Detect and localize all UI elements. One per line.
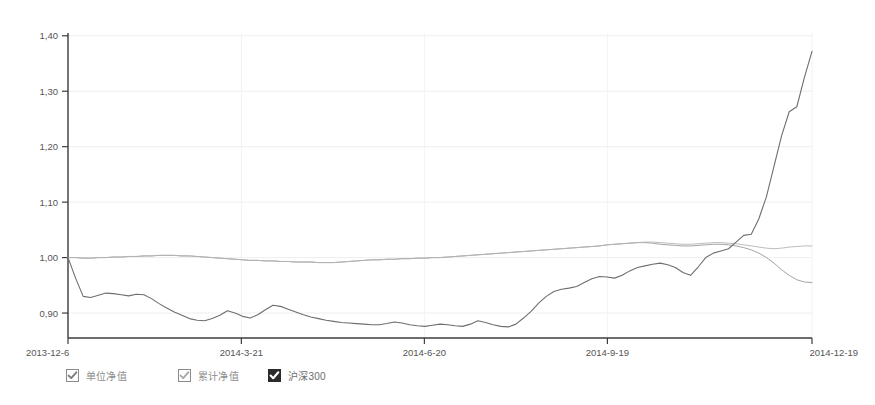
- x-tick-label: 2014-12-19: [809, 347, 858, 358]
- series-line-3: [68, 51, 812, 327]
- legend-checkbox-csi300[interactable]: [268, 369, 281, 382]
- gridlines: [68, 33, 812, 338]
- x-tick-label: 2014-9-19: [586, 347, 629, 358]
- legend-label-csi300: 沪深300: [288, 368, 326, 383]
- legend-checkbox-cumulative-nav[interactable]: [178, 369, 191, 382]
- y-tick-label: 0,90: [40, 308, 59, 319]
- legend-item-unit-nav[interactable]: 单位净值: [66, 368, 127, 383]
- check-icon: [67, 370, 78, 381]
- x-tick-label: 2014-3-21: [220, 347, 263, 358]
- series-lines: [68, 51, 812, 327]
- series-line-1: [68, 243, 812, 283]
- legend-item-cumulative-nav[interactable]: 累计净值: [178, 368, 239, 383]
- y-tick-label: 1,10: [40, 197, 59, 208]
- check-icon: [179, 370, 190, 381]
- legend-checkbox-unit-nav[interactable]: [66, 369, 79, 382]
- chart-plot-area: 1,401,301,201,101,000,90 2013-12-62014-3…: [0, 0, 875, 405]
- x-tick-label: 2013-12-6: [26, 347, 69, 358]
- check-icon: [269, 370, 280, 381]
- legend-item-csi300[interactable]: 沪深300: [268, 368, 326, 383]
- legend-label-cumulative-nav: 累计净值: [198, 368, 239, 383]
- chart-legend: 单位净值 累计净值 沪深300: [0, 362, 875, 396]
- legend-label-unit-nav: 单位净值: [86, 368, 127, 383]
- y-tick-label: 1,20: [40, 141, 59, 152]
- x-axis-ticks: 2013-12-62014-3-212014-6-202014-9-192014…: [26, 338, 858, 358]
- y-tick-label: 1,30: [40, 86, 59, 97]
- x-tick-label: 2014-6-20: [403, 347, 446, 358]
- fund-nav-chart: 1,401,301,201,101,000,90 2013-12-62014-3…: [0, 0, 875, 405]
- y-axis-ticks: 1,401,301,201,101,000,90: [40, 30, 69, 318]
- y-tick-label: 1,00: [40, 252, 59, 263]
- y-tick-label: 1,40: [40, 30, 59, 41]
- axes: [68, 33, 812, 338]
